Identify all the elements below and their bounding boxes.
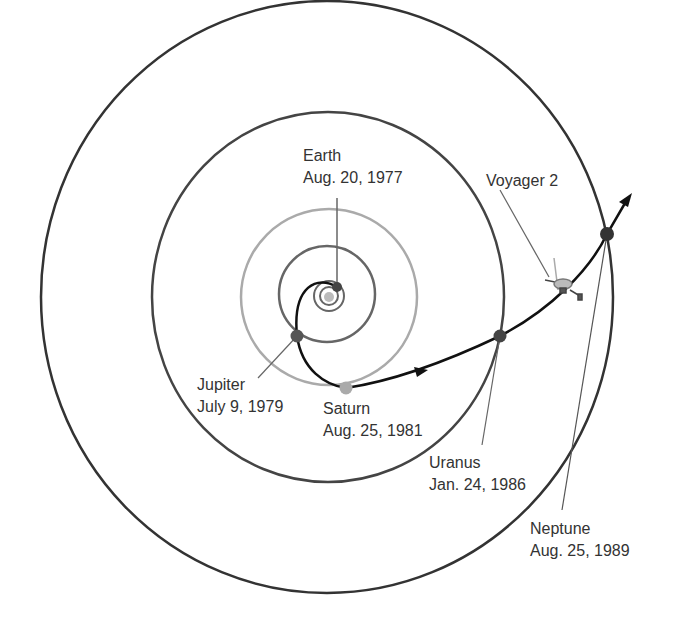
jupiter-date: July 9, 1979 [197, 396, 283, 418]
uranus-label: Uranus Jan. 24, 1986 [429, 452, 526, 496]
jupiter-dot [291, 330, 304, 343]
neptune-name: Neptune [530, 518, 630, 540]
neptune-date: Aug. 25, 1989 [530, 540, 630, 562]
voyager-leader [500, 190, 549, 277]
saturn-dot [340, 382, 353, 395]
neptune-dot [600, 227, 614, 241]
earth-name: Earth [303, 145, 403, 167]
uranus-dot [494, 330, 507, 343]
saturn-name: Saturn [323, 398, 423, 420]
trajectory-mid-arrow-icon [414, 367, 428, 377]
uranus-leader [482, 336, 500, 445]
voyager-label: Voyager 2 [486, 170, 558, 192]
neptune-label: Neptune Aug. 25, 1989 [530, 518, 630, 562]
jupiter-name: Jupiter [197, 374, 283, 396]
voyager-trajectory [296, 198, 628, 388]
saturn-label: Saturn Aug. 25, 1981 [323, 398, 423, 442]
uranus-date: Jan. 24, 1986 [429, 474, 526, 496]
saturn-date: Aug. 25, 1981 [323, 420, 423, 442]
neptune-leader [562, 234, 607, 510]
earth-label: Earth Aug. 20, 1977 [303, 145, 403, 189]
earth-date: Aug. 20, 1977 [303, 167, 403, 189]
sun [324, 292, 334, 302]
earth-dot [332, 282, 342, 292]
trajectory-end-arrow-icon [619, 193, 632, 207]
jupiter-label: Jupiter July 9, 1979 [197, 374, 283, 418]
uranus-name: Uranus [429, 452, 526, 474]
